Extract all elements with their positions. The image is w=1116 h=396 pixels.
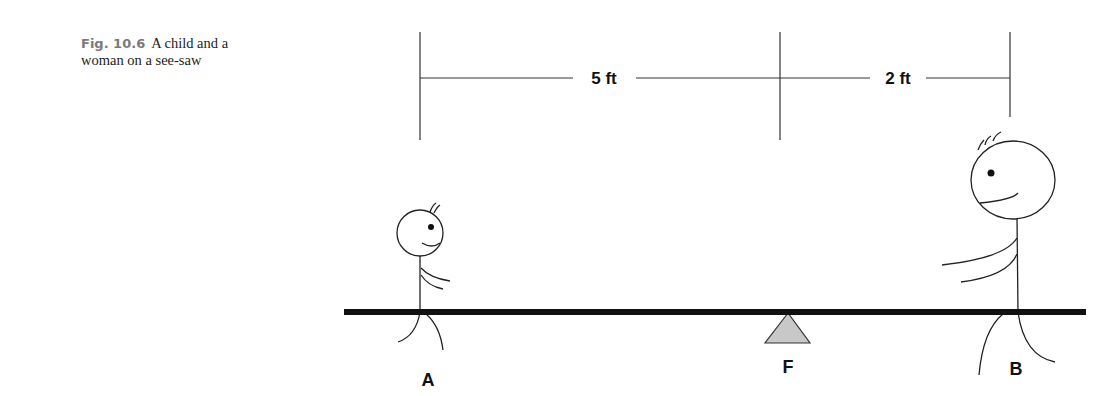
child-arm-1 [421, 268, 450, 281]
woman-leg-2 [1018, 312, 1055, 362]
woman-leg-1 [979, 314, 1003, 375]
fulcrum-triangle [765, 313, 810, 343]
child-figure [397, 203, 450, 350]
child-arm-2 [421, 275, 443, 289]
child-leg-1 [398, 312, 420, 342]
child-smile [422, 243, 440, 246]
woman-head [971, 141, 1055, 219]
dimension-label-2ft: 2 ft [885, 69, 911, 88]
woman-figure [942, 132, 1055, 375]
dimension-label-5ft: 5 ft [591, 69, 617, 88]
child-hair-2 [434, 205, 440, 213]
see-saw-beam [344, 309, 1086, 315]
woman-hair-1 [978, 140, 984, 150]
child-leg-2 [426, 314, 443, 350]
point-label-f: F [783, 357, 794, 377]
point-label-b: B [1010, 359, 1023, 379]
point-label-a: A [422, 370, 435, 390]
woman-hair-3 [993, 132, 1001, 141]
child-eye [428, 224, 434, 230]
woman-body [1017, 218, 1018, 312]
woman-arm-1 [942, 238, 1017, 265]
dimension-lines [420, 32, 1010, 140]
woman-eye [988, 170, 995, 177]
woman-smile [980, 193, 1018, 203]
child-head [397, 210, 443, 256]
woman-hair-2 [985, 136, 991, 145]
woman-arm-2 [961, 254, 1017, 282]
see-saw-diagram: 5 ft 2 ft A F B [0, 0, 1116, 396]
